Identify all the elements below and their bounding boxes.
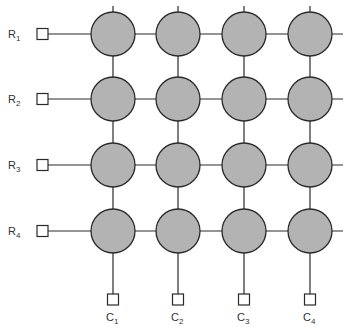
column-label-4: C4 [303,311,316,326]
column-label-1: C1 [106,311,119,326]
cell-r3-c2 [156,143,200,187]
cell-r4-c2 [156,209,200,253]
cell-r2-c2 [156,77,200,121]
cell-r3-c1 [91,143,135,187]
cell-r1-c2 [156,12,200,56]
column-label-2: C2 [171,311,184,326]
cell-r4-c1 [91,209,135,253]
column-terminal-4 [305,294,316,305]
row-label-1: R1 [8,28,21,43]
cell-r2-c3 [222,77,266,121]
cell-r1-c3 [222,12,266,56]
cell-r2-c1 [91,77,135,121]
row-terminal-2 [37,94,48,105]
row-label-2: R2 [8,93,21,108]
cell-r3-c4 [288,143,332,187]
diagram-canvas: R1R2R3R4C1C2C3C4 [0,0,350,331]
cells [91,12,332,253]
column-terminal-1 [108,294,119,305]
cell-r1-c1 [91,12,135,56]
row-terminal-1 [37,29,48,40]
cell-r4-c3 [222,209,266,253]
column-label-3: C3 [237,311,250,326]
cell-r3-c3 [222,143,266,187]
row-label-3: R3 [8,159,21,174]
row-label-4: R4 [8,225,21,240]
column-terminal-3 [239,294,250,305]
cell-r4-c4 [288,209,332,253]
row-terminal-3 [37,160,48,171]
crossbar-diagram: R1R2R3R4C1C2C3C4 [0,0,350,331]
column-terminal-2 [173,294,184,305]
cell-r1-c4 [288,12,332,56]
cell-r2-c4 [288,77,332,121]
row-terminal-4 [37,226,48,237]
